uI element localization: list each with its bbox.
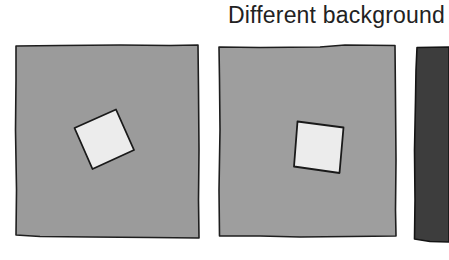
panel-1 [16,45,200,238]
illustration [0,0,449,260]
panel-2 [219,45,396,237]
panel-3-background [415,47,449,242]
panel-3 [415,47,449,242]
panel-2-square [294,122,344,174]
